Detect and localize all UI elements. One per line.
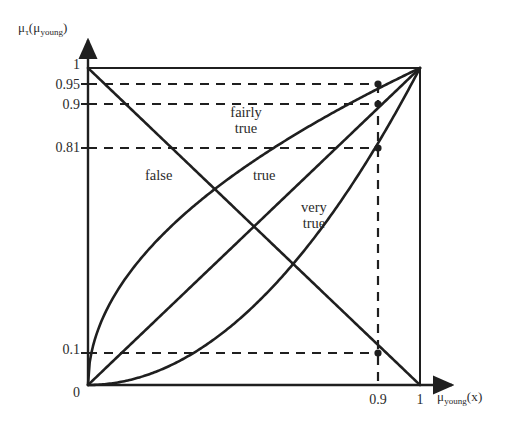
- curves: [88, 68, 420, 385]
- marker-false-0-1: [374, 349, 381, 356]
- fuzzy-truth-modifier-chart: μτ(μyoung) μyoung(x) 1 0.95 0.9 0.81 0.1…: [0, 0, 522, 440]
- plot-canvas: [0, 0, 522, 440]
- reference-lines: [88, 84, 378, 385]
- marker-very-true-0-81: [374, 144, 381, 151]
- marker-fairly-true-0-95: [374, 80, 381, 87]
- marker-true-0-9: [374, 100, 381, 107]
